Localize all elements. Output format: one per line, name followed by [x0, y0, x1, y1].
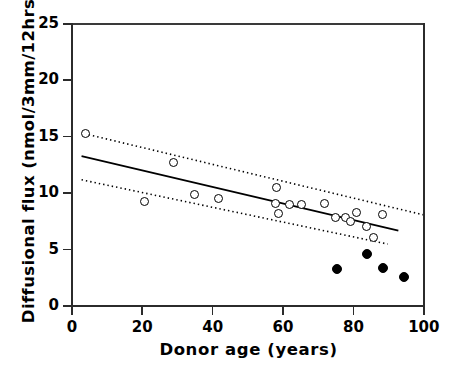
- y-tick-label: 20: [38, 70, 59, 88]
- data-point-filled: [378, 263, 388, 273]
- data-point-open: [369, 233, 378, 242]
- x-tick: 60: [282, 307, 284, 315]
- y-tick-label: 15: [38, 127, 59, 145]
- data-point-filled: [362, 249, 372, 259]
- data-point-open: [169, 158, 178, 167]
- y-tick: 25: [63, 23, 71, 25]
- x-tick: 0: [71, 307, 73, 315]
- trend-lines: [71, 23, 425, 307]
- x-tick: 80: [353, 307, 355, 315]
- data-point-open: [285, 200, 294, 209]
- data-point-open: [362, 222, 371, 231]
- data-point-open: [271, 199, 280, 208]
- y-tick: 15: [63, 136, 71, 138]
- confidence-band-line: [89, 135, 423, 215]
- x-tick-label: 80: [343, 318, 364, 336]
- y-axis-title: Diffusional flux (nmol/3mm/12hrs): [11, 2, 45, 312]
- data-point-filled: [399, 272, 409, 282]
- x-tick-label: 0: [67, 318, 77, 336]
- y-tick: 5: [63, 249, 71, 251]
- y-tick: 20: [63, 79, 71, 81]
- y-tick: 10: [63, 192, 71, 194]
- data-point-open: [331, 213, 340, 222]
- x-tick-label: 60: [273, 318, 294, 336]
- x-axis-title: Donor age (years): [71, 340, 426, 359]
- plot-area: 0510152025 020406080100: [71, 23, 425, 307]
- y-tick-label: 25: [38, 14, 59, 32]
- data-point-open: [320, 199, 329, 208]
- x-tick-label: 20: [132, 318, 153, 336]
- data-point-open: [190, 190, 199, 199]
- data-point-open: [352, 208, 361, 217]
- x-tick: 40: [212, 307, 214, 315]
- x-tick: 100: [423, 307, 425, 315]
- x-tick-label: 100: [408, 318, 439, 336]
- y-tick-label: 5: [49, 240, 59, 258]
- y-tick-label: 0: [49, 296, 59, 314]
- x-tick: 20: [141, 307, 143, 315]
- y-tick: 0: [63, 305, 71, 307]
- y-tick-label: 10: [38, 183, 59, 201]
- data-point-filled: [332, 264, 342, 274]
- confidence-band-line: [82, 180, 388, 244]
- x-tick-label: 40: [202, 318, 223, 336]
- chart-figure: Diffusional flux (nmol/3mm/12hrs) Donor …: [0, 0, 450, 380]
